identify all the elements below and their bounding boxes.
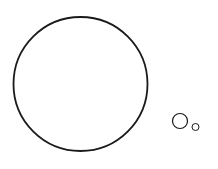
large-circle — [14, 17, 148, 151]
small-circle — [192, 124, 199, 131]
diagram-canvas — [0, 0, 218, 169]
medium-circle — [173, 114, 188, 129]
circles-diagram — [0, 0, 218, 169]
